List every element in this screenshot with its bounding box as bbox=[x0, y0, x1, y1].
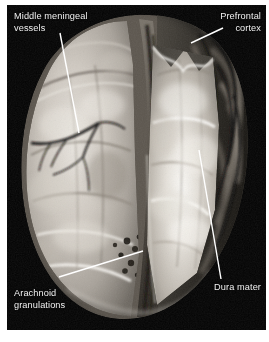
specimen-photograph bbox=[7, 5, 266, 330]
figure-root: Middle meningeal vessels Prefrontal cort… bbox=[0, 0, 269, 342]
specimen-image bbox=[7, 5, 266, 330]
